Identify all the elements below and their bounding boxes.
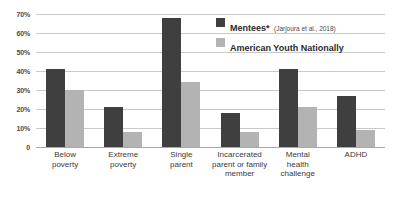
- y-tick-label-30: 30%: [17, 87, 30, 94]
- bar-group: [94, 14, 152, 147]
- bar: [221, 113, 240, 147]
- x-axis-label: ADHD: [321, 150, 391, 160]
- bar: [65, 90, 84, 147]
- legend-swatch-icon-mentees: [216, 18, 225, 27]
- legend-item-american-youth: American Youth Nationally: [216, 37, 381, 55]
- legend-swatch-icon-american-youth: [216, 38, 225, 47]
- chart-legend: Mentees* (Jarjoura et al., 2018) America…: [216, 17, 381, 56]
- y-axis: 70%60%50%40%30%20%10%0: [0, 14, 34, 147]
- gridline-0: [36, 147, 385, 148]
- bar: [123, 132, 142, 147]
- y-tick-label-70: 70%: [17, 11, 30, 18]
- bar: [181, 82, 200, 147]
- legend-citation-mentees: (Jarjoura et al., 2018): [274, 25, 336, 32]
- bar: [356, 130, 375, 147]
- legend-label-american-youth: American Youth Nationally: [230, 43, 344, 53]
- y-tick-label-40: 40%: [17, 68, 30, 75]
- y-tick-label-60: 60%: [17, 30, 30, 37]
- bar-chart: 70%60%50%40%30%20%10%0 BelowpovertyExtre…: [0, 0, 399, 199]
- bar: [337, 96, 356, 147]
- bar-group: [152, 14, 210, 147]
- x-axis: BelowpovertyExtremepovertySingleparentIn…: [36, 150, 385, 196]
- bar: [279, 69, 298, 147]
- bar-group: [36, 14, 94, 147]
- y-tick-label-20: 20%: [17, 106, 30, 113]
- bar: [162, 18, 181, 147]
- bar: [46, 69, 65, 147]
- bar: [240, 132, 259, 147]
- legend-label-mentees: Mentees*: [230, 23, 270, 33]
- bar: [298, 107, 317, 147]
- y-tick-label-50: 50%: [17, 49, 30, 56]
- bar: [104, 107, 123, 147]
- y-tick-label-10: 10%: [17, 125, 30, 132]
- legend-item-mentees: Mentees* (Jarjoura et al., 2018): [216, 17, 381, 35]
